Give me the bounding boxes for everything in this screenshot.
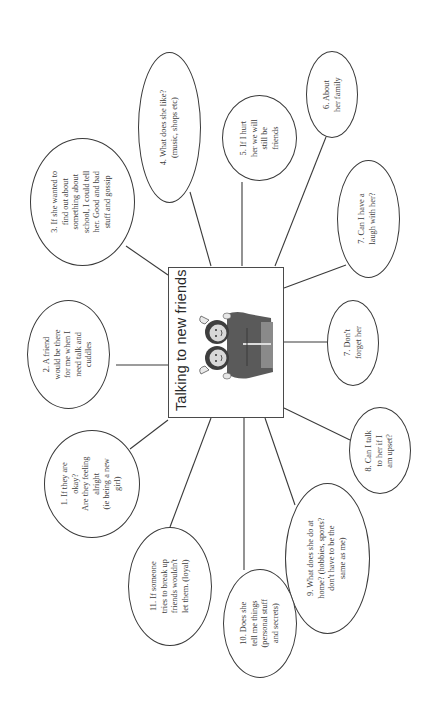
node-2-friend-there: 2. A friend would be there for me when I… <box>27 300 110 409</box>
mind-map: Talking to new friends 3. If she wanted … <box>0 0 431 716</box>
central-topic-box: Talking to new friends <box>168 267 284 418</box>
connector-n8 <box>284 408 350 440</box>
node-11-loyal: 11. If someone tries to break up friends… <box>128 527 212 646</box>
connector-n9 <box>265 418 295 505</box>
central-topic-title: Talking to new friends <box>173 269 189 411</box>
node-label: 9. What does she do at home? (hobbies, s… <box>306 518 348 599</box>
connector-n7a <box>284 265 346 288</box>
node-5-still-friends: 5. If I hurt her we will still be friend… <box>222 95 297 181</box>
node-label: 1. If they are okay? Are they feeling al… <box>60 457 124 511</box>
node-7-dont-forget: 7. Don't forget her <box>327 300 379 386</box>
node-1-feeling-alright: 1. If they are okay? Are they feeling al… <box>44 430 140 538</box>
node-label: 5. If I hurt her we will still be friend… <box>238 119 280 157</box>
connector-n1 <box>130 420 168 449</box>
node-label: 8. Can I talk to her if I am upset? <box>364 430 396 471</box>
node-7-laugh: 7. Can I have a laugh with her? <box>337 160 400 278</box>
node-4-likes: 4. What does she like? (music, shops etc… <box>138 52 201 203</box>
node-label: 2. A friend would be there for me when I… <box>42 330 95 380</box>
node-label: 6. About her family <box>321 77 342 112</box>
node-3-school-gossip: 3. If she wanted to find out about somet… <box>30 138 135 266</box>
connector-n3 <box>126 246 168 275</box>
connector-n11 <box>170 418 211 527</box>
node-label: 3. If she wanted to find out about somet… <box>51 171 115 233</box>
node-6-family: 6. About her family <box>306 51 358 138</box>
node-label: 4. What does she like? (music, shops etc… <box>159 90 180 165</box>
node-9-at-home: 9. What does she do at home? (hobbies, s… <box>285 483 370 634</box>
connector-n4 <box>190 192 211 266</box>
node-8-talk-if-upset: 8. Can I talk to her if I am upset? <box>349 407 411 494</box>
node-label: 10. Does she tell me things (personal st… <box>239 599 281 647</box>
two-friends-illustration-icon <box>197 308 275 382</box>
node-label: 11. If someone tries to break up friends… <box>149 559 191 613</box>
node-label: 7. Don't forget her <box>342 327 363 360</box>
node-10-tell-me-things: 10. Does she tell me things (personal st… <box>223 569 297 678</box>
node-label: 7. Can I have a laugh with her? <box>358 193 379 245</box>
